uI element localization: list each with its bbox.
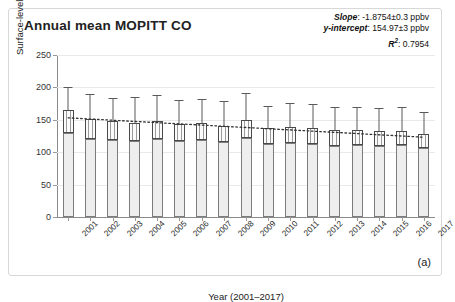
stat-slope-key: Slope xyxy=(334,12,357,22)
y-axis-tick-label: 200 xyxy=(36,82,51,92)
stat-slope: Slope: -1.8754±0.3 ppbv xyxy=(323,12,429,23)
x-axis-tick-mark xyxy=(246,217,247,221)
stat-r-squared: R2: 0.7954 xyxy=(323,35,429,50)
stat-r-squared-value: : 0.7954 xyxy=(398,39,429,49)
x-axis-tick-mark xyxy=(379,217,380,221)
y-axis-tick-label: 0 xyxy=(46,212,51,222)
x-axis-tick-mark xyxy=(135,217,136,221)
y-axis-label: Surface-level CO (ppbv) xyxy=(14,0,25,55)
x-axis-tick-mark xyxy=(157,217,158,221)
x-axis-tick-mark xyxy=(402,217,403,221)
stat-intercept-key: y-intercept xyxy=(323,23,367,33)
x-axis-tick-mark xyxy=(90,217,91,221)
x-axis-tick-mark xyxy=(335,217,336,221)
chart-title: Annual mean MOPITT CO xyxy=(24,18,192,33)
x-axis-tick-mark xyxy=(313,217,314,221)
x-axis-tick-mark xyxy=(113,217,114,221)
trend-line xyxy=(57,55,435,217)
y-axis-tick-label: 100 xyxy=(36,147,51,157)
x-axis-tick-mark xyxy=(68,217,69,221)
y-axis-tick-label: 150 xyxy=(36,115,51,125)
x-axis-tick-mark xyxy=(290,217,291,221)
y-axis-tick-mark xyxy=(53,217,57,218)
x-axis-label: Year (2001–2017) xyxy=(57,291,435,302)
x-axis-tick-mark xyxy=(268,217,269,221)
x-axis-tick-mark xyxy=(357,217,358,221)
regression-stats-annotation: Slope: -1.8754±0.3 ppbv y-intercept: 154… xyxy=(323,12,429,50)
x-axis-tick-mark xyxy=(224,217,225,221)
plot-area: 050100150200250 200120022003200420052006… xyxy=(57,55,435,217)
x-axis-tick-mark xyxy=(202,217,203,221)
panel-label: (a) xyxy=(418,256,431,268)
stat-slope-value: : -1.8754±0.3 ppbv xyxy=(357,12,429,22)
x-axis-tick-mark xyxy=(424,217,425,221)
stat-intercept: y-intercept: 154.97±3 ppbv xyxy=(323,23,429,34)
stat-intercept-value: : 154.97±3 ppbv xyxy=(367,23,429,33)
y-axis-tick-label: 250 xyxy=(36,50,51,60)
x-axis-tick-mark xyxy=(179,217,180,221)
y-axis-tick-label: 50 xyxy=(41,180,51,190)
